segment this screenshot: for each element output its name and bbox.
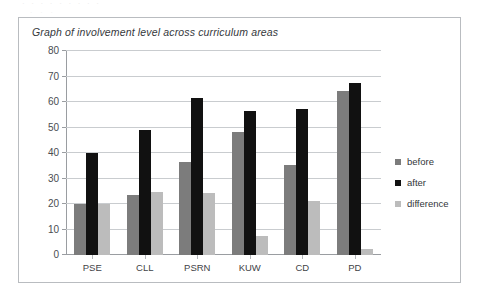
bar-before[interactable] (179, 162, 191, 255)
legend-item-difference[interactable]: difference (395, 198, 449, 209)
chart-frame: Graph of involvement level across curric… (18, 17, 461, 283)
legend-swatch-icon (395, 159, 401, 165)
y-axis-tick-label: 0 (53, 249, 59, 260)
scan-residue-strip: · · · · · · · · · · · · (0, 0, 479, 14)
legend-label: difference (407, 198, 449, 209)
bar-groups: PSECLLPSRNKUWCDPD (66, 51, 381, 255)
bar-after[interactable] (139, 130, 151, 255)
bar-after[interactable] (244, 111, 256, 255)
scan-residue-line-2: · · · (30, 9, 56, 14)
x-tick-mark (145, 255, 146, 259)
y-axis-tick-label: 40 (48, 147, 59, 158)
x-axis-tick-label: PSE (83, 262, 102, 273)
y-axis-tick-label: 60 (48, 96, 59, 107)
legend-swatch-icon (395, 201, 401, 207)
bar-group: PSE (66, 51, 119, 255)
legend-item-before[interactable]: before (395, 156, 449, 167)
bar-difference[interactable] (361, 249, 373, 255)
plot-area: 80706050403020100 PSECLLPSRNKUWCDPD (66, 51, 381, 255)
bar-before[interactable] (232, 132, 244, 255)
x-axis-tick-label: KUW (239, 262, 261, 273)
bar-before[interactable] (74, 204, 86, 255)
bar-group: CLL (119, 51, 172, 255)
y-axis-tick-label: 70 (48, 70, 59, 81)
plot-inner: 80706050403020100 PSECLLPSRNKUWCDPD (66, 51, 381, 255)
bar-group: KUW (224, 51, 277, 255)
y-axis-tick-label: 10 (48, 223, 59, 234)
bar-group: CD (276, 51, 329, 255)
bar-difference[interactable] (256, 236, 268, 255)
x-tick-mark (250, 255, 251, 259)
bar-after[interactable] (296, 109, 308, 255)
y-axis-tick-label: 20 (48, 198, 59, 209)
legend-item-after[interactable]: after (395, 177, 449, 188)
bar-after[interactable] (191, 98, 203, 255)
legend-label: before (407, 156, 434, 167)
bar-after[interactable] (86, 153, 98, 255)
bar-difference[interactable] (203, 193, 215, 255)
x-axis-tick-label: PSRN (184, 262, 210, 273)
chart-legend: beforeafterdifference (395, 156, 449, 209)
bar-before[interactable] (337, 91, 349, 255)
y-axis-tick-label: 50 (48, 121, 59, 132)
x-axis-tick-label: CD (295, 262, 309, 273)
x-tick-mark (355, 255, 356, 259)
bar-group: PD (329, 51, 382, 255)
x-axis-tick-label: PD (348, 262, 361, 273)
bar-after[interactable] (349, 83, 361, 255)
bar-before[interactable] (284, 165, 296, 255)
bar-group: PSRN (171, 51, 224, 255)
x-tick-mark (92, 255, 93, 259)
x-tick-mark (302, 255, 303, 259)
legend-swatch-icon (395, 180, 401, 186)
x-axis-tick-label: CLL (136, 262, 153, 273)
scan-residue-line-1: · · · · · · · · · (22, 0, 101, 8)
bar-difference[interactable] (98, 204, 110, 255)
y-axis-tick-label: 30 (48, 172, 59, 183)
bar-difference[interactable] (151, 192, 163, 255)
bar-difference[interactable] (308, 201, 320, 255)
bar-before[interactable] (127, 195, 139, 255)
y-axis-tick-label: 80 (48, 45, 59, 56)
chart-title: Graph of involvement level across curric… (32, 26, 278, 38)
legend-label: after (407, 177, 426, 188)
x-tick-mark (197, 255, 198, 259)
